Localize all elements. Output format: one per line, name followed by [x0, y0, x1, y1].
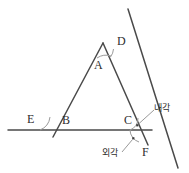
vertex-label-e: E — [27, 113, 34, 125]
interior-angle-label: 내각 — [154, 104, 170, 113]
vertex-label-d: D — [117, 35, 126, 47]
interior-angle-dot — [136, 124, 138, 126]
vertex-label-c: C — [124, 114, 132, 126]
geometry-canvas — [0, 0, 189, 173]
exterior-angle-dot — [132, 137, 134, 139]
interior-angle-leader-line — [139, 110, 155, 124]
left-vertex-angle-arc — [40, 117, 50, 130]
vertex-label-b: B — [62, 114, 70, 126]
vertex-label-a: A — [94, 59, 103, 71]
transversal-line — [128, 9, 178, 168]
vertex-label-f: F — [142, 146, 149, 158]
exterior-angle-leader-line — [122, 140, 133, 153]
geometry-figure: A D E B C F 내각 외각 — [0, 0, 189, 173]
exterior-angle-label: 외각 — [102, 149, 118, 158]
